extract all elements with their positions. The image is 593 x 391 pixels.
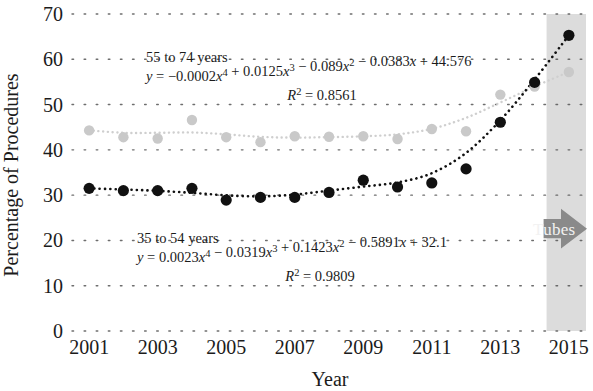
x-tick-label-2009: 2009 xyxy=(343,336,383,358)
datapoint-35-to-54-years-2012 xyxy=(460,163,471,174)
y-axis-title: Percentage of Procedures xyxy=(0,73,23,276)
annotation-55-74: 55 to 74 years y = −0.0002x4 + 0.0125x3 … xyxy=(144,49,471,103)
datapoint-55-to-74-years-2009 xyxy=(358,131,368,141)
annotation-55-74-label: 55 to 74 years xyxy=(146,49,228,65)
y-tick-label-50: 50 xyxy=(43,94,63,116)
annotation-35-54: 35 to 54 years y = 0.0023x4 − 0.0319x3 +… xyxy=(135,230,447,284)
datapoint-55-to-74-years-2006 xyxy=(255,137,265,147)
y-tick-label-40: 40 xyxy=(43,139,63,161)
datapoint-55-to-74-years-2015 xyxy=(564,67,574,77)
x-axis-title: Year xyxy=(312,368,349,390)
datapoint-55-to-74-years-2004 xyxy=(187,115,197,125)
datapoint-35-to-54-years-2003 xyxy=(152,185,163,196)
tubes-era-band xyxy=(547,14,586,331)
x-tick-label-2013: 2013 xyxy=(480,336,520,358)
x-tick-label-2005: 2005 xyxy=(206,336,246,358)
y-axis-ticks: 010203040506070 xyxy=(43,3,63,342)
datapoint-35-to-54-years-2002 xyxy=(118,185,129,196)
datapoint-35-to-54-years-2005 xyxy=(221,195,232,206)
datapoint-55-to-74-years-2007 xyxy=(290,131,300,141)
datapoint-55-to-74-years-2011 xyxy=(427,124,437,134)
chart-canvas: 010203040506070 200120032005200720092011… xyxy=(0,0,593,391)
x-tick-label-2007: 2007 xyxy=(275,336,315,358)
datapoint-35-to-54-years-2006 xyxy=(255,192,266,203)
x-axis-ticks: 20012003200520072009201120132015 xyxy=(69,336,589,358)
chart-figure: 010203040506070 200120032005200720092011… xyxy=(0,0,593,391)
datapoint-55-to-74-years-2003 xyxy=(152,133,162,143)
x-tick-label-2003: 2003 xyxy=(138,336,178,358)
x-tick-label-2011: 2011 xyxy=(412,336,451,358)
datapoint-55-to-74-years-2013 xyxy=(495,89,505,99)
datapoint-55-to-74-years-2005 xyxy=(221,132,231,142)
datapoint-35-to-54-years-2013 xyxy=(495,117,506,128)
datapoint-55-to-74-years-2010 xyxy=(392,134,402,144)
x-tick-label-2001: 2001 xyxy=(69,336,109,358)
annotation-55-74-r2: R2 = 0.8561 xyxy=(286,86,356,103)
datapoint-35-to-54-years-2008 xyxy=(323,187,334,198)
annotation-35-54-r2: R2 = 0.9809 xyxy=(284,267,354,284)
datapoint-35-to-54-years-2004 xyxy=(186,183,197,194)
datapoint-35-to-54-years-2014 xyxy=(529,77,540,88)
y-tick-label-30: 30 xyxy=(43,184,63,206)
tubes-arrow-label: Tubes xyxy=(533,220,575,239)
shaded-region-group xyxy=(547,14,586,331)
annotation-35-54-label: 35 to 54 years xyxy=(137,230,219,246)
datapoint-35-to-54-years-2001 xyxy=(84,183,95,194)
datapoint-55-to-74-years-2012 xyxy=(461,126,471,136)
datapoint-55-to-74-years-2008 xyxy=(324,132,334,142)
y-tick-label-20: 20 xyxy=(43,229,63,251)
datapoint-55-to-74-years-2001 xyxy=(84,125,94,135)
y-tick-label-0: 0 xyxy=(53,320,63,342)
datapoint-55-to-74-years-2002 xyxy=(118,132,128,142)
datapoint-35-to-54-years-2009 xyxy=(358,175,369,186)
y-tick-label-10: 10 xyxy=(43,275,63,297)
y-tick-label-70: 70 xyxy=(43,3,63,25)
x-tick-label-2015: 2015 xyxy=(549,336,589,358)
datapoint-35-to-54-years-2007 xyxy=(289,192,300,203)
datapoint-35-to-54-years-2010 xyxy=(392,181,403,192)
y-tick-label-60: 60 xyxy=(43,48,63,70)
datapoint-35-to-54-years-2011 xyxy=(426,177,437,188)
datapoint-35-to-54-years-2015 xyxy=(563,30,574,41)
